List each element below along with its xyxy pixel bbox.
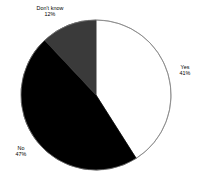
pie-label-yes: Yes 41%: [168, 64, 202, 76]
pie-chart-figure: Don't know 12% Yes 41% No 47%: [0, 0, 210, 185]
pie-label-no-value: 47%: [4, 151, 38, 157]
pie-label-dont-know: Don't know 12%: [22, 5, 78, 17]
pie-label-dont-know-value: 12%: [22, 11, 78, 17]
pie-label-yes-value: 41%: [168, 70, 202, 76]
pie-slice-group: [21, 20, 171, 170]
pie-label-no: No 47%: [4, 145, 38, 157]
